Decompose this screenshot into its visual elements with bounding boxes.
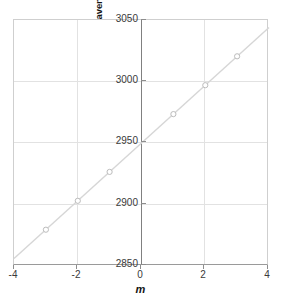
y-tick-mark-3050: [141, 19, 146, 20]
y-tick-label-3000: 3000: [104, 75, 138, 85]
fit-line: [14, 27, 269, 258]
chart-container: Wavenumber, (v / hc) / cm-1 m: [0, 0, 281, 301]
data-point-marker: [43, 227, 48, 232]
x-tick-label-minus2: -2: [66, 270, 86, 280]
data-point-marker: [107, 169, 112, 174]
data-point-marker: [75, 198, 80, 203]
data-point-marker: [171, 112, 176, 117]
x-tick-label-plus2: 2: [193, 270, 213, 280]
data-point-marker: [235, 54, 240, 59]
y-tick-mark-2900: [141, 203, 146, 204]
data-point-marker: [203, 83, 208, 88]
y-tick-mark-3000: [141, 80, 146, 81]
plot-area: [13, 19, 268, 265]
y-tick-label-3050: 3050: [104, 14, 138, 24]
y-tick-label-2950: 2950: [104, 136, 138, 146]
x-tick-label-minus4: -4: [3, 270, 23, 280]
x-axis-title: m: [0, 283, 281, 295]
y-tick-label-2900: 2900: [104, 198, 138, 208]
data-series-layer: [14, 20, 269, 266]
y-tick-mark-2850: [141, 264, 146, 265]
x-tick-label-zero: 0: [130, 270, 150, 280]
x-tick-label-plus4: 4: [257, 270, 277, 280]
y-tick-label-2850: 2850: [104, 259, 138, 269]
y-tick-mark-2950: [141, 141, 146, 142]
